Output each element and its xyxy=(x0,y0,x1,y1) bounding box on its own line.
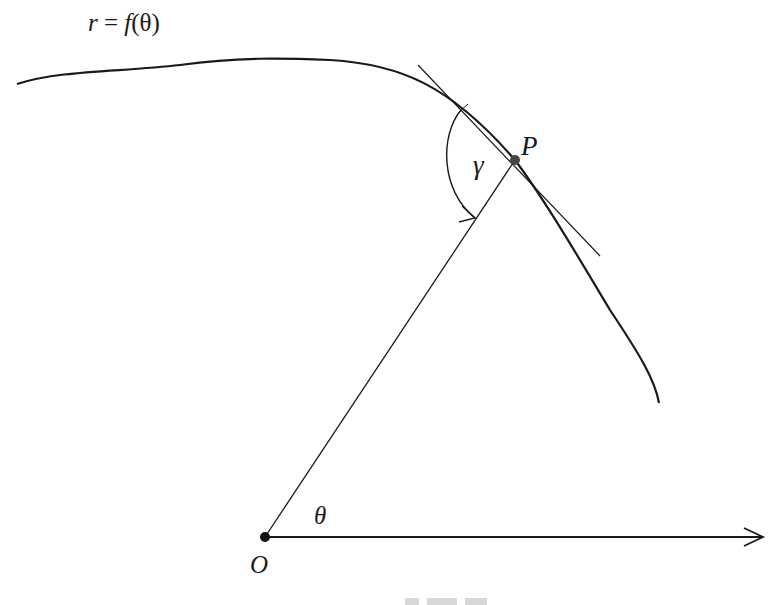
polar-curve-diagram: r = f(θ) P γ θ O xyxy=(0,0,777,605)
tangent-line xyxy=(418,65,600,256)
polar-curve xyxy=(17,59,659,403)
point-P-marker xyxy=(510,155,520,165)
eq-r: r xyxy=(88,9,98,36)
gamma-arrowhead-icon xyxy=(459,206,475,222)
figure-caption-cutoff xyxy=(405,598,525,605)
gamma-arc xyxy=(447,110,475,218)
eq-equals: = xyxy=(98,9,125,36)
point-P-label: P xyxy=(521,133,538,160)
origin-label: O xyxy=(250,552,268,577)
radius-line xyxy=(265,160,515,537)
eq-arg: (θ) xyxy=(131,9,160,36)
angle-theta-label: θ xyxy=(314,503,326,528)
angle-gamma-label: γ xyxy=(473,152,484,179)
curve-equation-label: r = f(θ) xyxy=(88,10,160,35)
origin-marker xyxy=(260,532,270,542)
diagram-canvas xyxy=(0,0,777,605)
